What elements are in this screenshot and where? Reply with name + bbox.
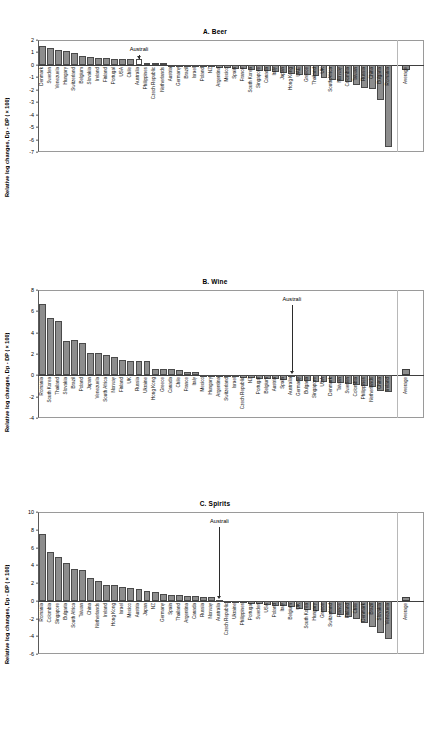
category-label: China (378, 377, 383, 389)
bar (168, 595, 175, 601)
category-label: Czech Republic (152, 67, 157, 99)
category-label: Italy (193, 377, 198, 385)
category-label: Australia (217, 603, 222, 621)
bar (95, 353, 102, 375)
category-label: Greece (321, 603, 326, 618)
bar (136, 361, 143, 375)
figure-root: A. Beer Relative log changes, Dp - DP (×… (0, 0, 430, 741)
bar (144, 63, 151, 65)
category-label: Philippines (144, 67, 149, 89)
average-bar (402, 369, 410, 375)
bar (152, 592, 159, 601)
bar (160, 594, 167, 601)
category-label: Finland (120, 377, 125, 392)
y-tick-label: 4 (18, 562, 34, 568)
bar (39, 304, 46, 375)
category-label: South Korea (48, 377, 53, 403)
category-label: Mexico (201, 377, 206, 392)
axes-wine: 86420-2-4RomaniaSouth KoreaThailandSlova… (0, 290, 430, 493)
bar (119, 59, 126, 65)
category-label: South Africa (72, 603, 77, 628)
category-label: Colombia (346, 67, 351, 86)
category-label: Portugal (112, 67, 117, 84)
category-label: Belgium (265, 377, 270, 394)
category-label: Hong Kong (289, 67, 294, 90)
category-label: Germany (161, 603, 166, 622)
bar (127, 361, 134, 375)
panel-title-spirits: C. Spirits (0, 500, 430, 507)
category-label: Sweden (346, 377, 351, 394)
y-tick-mark (36, 654, 39, 655)
category-label: France (338, 603, 343, 617)
bar (103, 58, 110, 65)
category-label: Poland (201, 67, 206, 81)
bar (79, 343, 86, 376)
australia-annotation-label: Australi (283, 296, 302, 302)
average-label: Average (404, 67, 409, 84)
category-label: Ukraine (233, 603, 238, 619)
category-label: Slovakia (64, 377, 69, 394)
category-label: Belgium (289, 603, 294, 620)
category-label: Denmark (329, 377, 334, 396)
y-tick-mark (36, 618, 39, 619)
category-label: NZ (249, 377, 254, 383)
y-tick-mark (36, 529, 39, 530)
axes-spirits: 1086420-2-4-6RomaniaColombiaSingaporeBul… (0, 512, 430, 735)
category-label: Switzerland (329, 603, 334, 627)
bar (47, 318, 54, 375)
y-tick-label: -4 (18, 633, 34, 639)
axes-beer: 210-1-2-3-4-5-6-7DenmarkSwedenVenezuelaH… (0, 40, 430, 272)
y-tick-label: 2 (18, 37, 34, 43)
category-label: Mexico (128, 603, 133, 618)
bar (63, 51, 70, 64)
category-label: Norway (338, 67, 343, 83)
average-label: Average (404, 603, 409, 620)
average-separator (397, 290, 398, 418)
bar (184, 372, 191, 376)
chart-panel-beer: A. Beer Relative log changes, Dp - DP (×… (0, 28, 430, 273)
bar (103, 355, 110, 376)
y-tick-mark (36, 547, 39, 548)
category-label: Israel (233, 377, 238, 388)
bar (95, 581, 102, 601)
y-tick-mark (36, 40, 39, 41)
y-tick-label: 8 (18, 287, 34, 293)
category-label: Colombia (48, 603, 53, 622)
bar (152, 369, 159, 376)
category-label: Philippines (241, 603, 246, 625)
bar (71, 53, 78, 65)
category-label: Brazil (370, 603, 375, 615)
category-label: Brazil (72, 377, 77, 389)
category-label: South Africa (329, 67, 334, 92)
bar (176, 370, 183, 375)
category-label: Israel (120, 603, 125, 614)
plot-area-beer: Relative log changes, Dp - DP (×100) 210… (0, 40, 430, 272)
category-label: Hungary (313, 603, 318, 620)
category-label: Russia (362, 67, 367, 81)
bar (111, 59, 118, 65)
australia-annotation-label: Australi (210, 518, 229, 524)
y-tick-label: -7 (18, 149, 34, 155)
bar (119, 360, 126, 375)
category-label: China (88, 603, 93, 615)
bar (95, 58, 102, 65)
category-label: USA (321, 377, 326, 386)
y-tick-label: 6 (18, 308, 34, 314)
bar (79, 570, 86, 601)
average-separator (397, 40, 398, 152)
y-tick-mark (36, 290, 39, 291)
category-label: Sweden (48, 67, 53, 84)
category-label: Denmark (362, 603, 367, 622)
y-tick-mark (36, 77, 39, 78)
bar (192, 596, 199, 601)
y-tick-label: 0 (18, 598, 34, 604)
category-label: Switzerland (225, 377, 230, 401)
y-tick-mark (36, 565, 39, 566)
category-label: Netherlands (96, 603, 101, 628)
category-label: Poland (273, 603, 278, 617)
category-label: UK (321, 67, 326, 73)
y-tick-label: -5 (18, 124, 34, 130)
category-label: Belgium (80, 67, 85, 84)
y-tick-label: 10 (18, 509, 34, 515)
category-label: Taiwan (338, 377, 343, 391)
